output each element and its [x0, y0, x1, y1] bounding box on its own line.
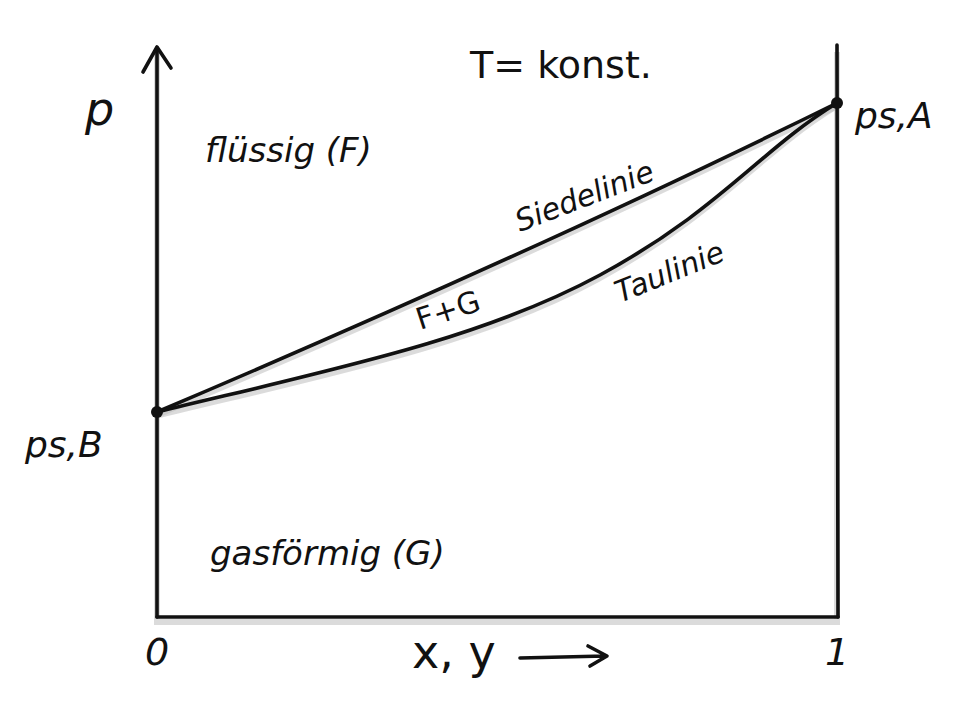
- x-max-label: 1: [825, 630, 849, 674]
- label-ps-a: ps,A: [854, 95, 933, 136]
- region-liquid: flüssig (F): [205, 130, 372, 170]
- x-axis-label: x, y: [412, 625, 496, 679]
- taulinie-label: Taulinie: [610, 234, 730, 310]
- region-gas: gasförmig (G): [210, 533, 445, 573]
- phase-diagram: T= konst. p flüssig (F) ps,A ps,B Siedel…: [0, 0, 963, 721]
- x-arrow-icon: [520, 646, 607, 666]
- right-axis: [837, 45, 838, 617]
- title: T= konst.: [469, 43, 652, 87]
- label-ps-b: ps,B: [24, 424, 103, 465]
- point-ps-a: [831, 97, 843, 109]
- point-ps-b: [151, 406, 163, 418]
- x-min-label: 0: [145, 630, 169, 674]
- y-axis-label: p: [84, 82, 114, 136]
